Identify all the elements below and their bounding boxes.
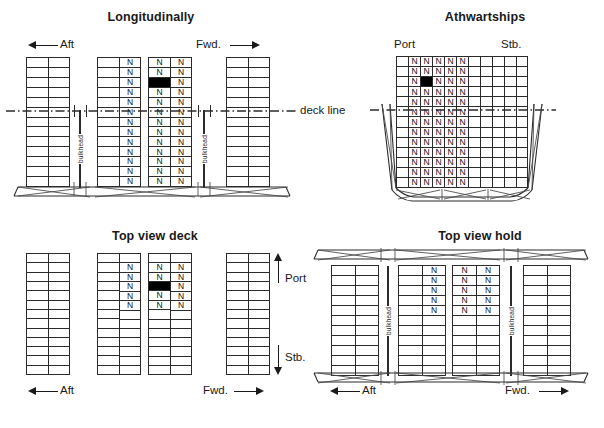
fwd-arrow-head-icon xyxy=(561,387,569,395)
fwd-arrow-line xyxy=(539,391,561,392)
top-view-hold-hull xyxy=(0,0,604,428)
top-view-hold-aft-label: Aft xyxy=(362,384,376,396)
top-view-hold-fwd-label: Fwd. xyxy=(505,384,530,396)
aft-arrow-head-icon xyxy=(330,387,338,395)
aft-arrow-line xyxy=(338,391,360,392)
